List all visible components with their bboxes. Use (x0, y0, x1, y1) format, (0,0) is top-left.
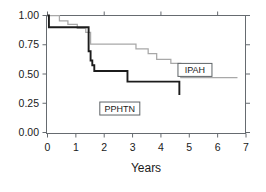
legend-label-pphtn: PPHTN (105, 104, 136, 114)
y-tick-label-5: 0.00 (19, 126, 40, 138)
plot-frame (47, 16, 246, 134)
y-tick-label-4: 0.25 (19, 97, 40, 109)
x-axis-top-ticks (48, 12, 218, 16)
x-tick-label-0: 0 (45, 141, 51, 153)
y-tick-label-2: 0.75 (19, 38, 40, 50)
y-axis-ticks (43, 16, 47, 133)
y-tick-label-1: 1.00 (19, 9, 40, 21)
x-tick-label-5: 5 (186, 141, 192, 153)
x-axis-title: Years (131, 161, 161, 175)
x-tick-label-2: 2 (101, 141, 107, 153)
x-tick-label-4: 4 (158, 141, 164, 153)
legend-annotation-pphtn[interactable]: PPHTN (100, 102, 140, 115)
x-axis-ticks (48, 134, 247, 138)
legend-label-ipah: IPAH (185, 65, 205, 75)
y-axis-tick-labels: 1.00 0.75 0.50 0.25 0.00 (19, 9, 40, 138)
survival-curve-pphtn (48, 16, 180, 96)
x-axis-tick-labels: 0 1 2 3 4 5 6 7 (45, 141, 250, 153)
x-tick-label-7: 7 (243, 141, 249, 153)
survival-curve-figure: 1.00 0.75 0.50 0.25 0.00 (0, 0, 266, 192)
x-tick-label-1: 1 (73, 141, 79, 153)
kaplan-meier-plot: 1.00 0.75 0.50 0.25 0.00 (0, 0, 266, 192)
legend-annotation-ipah[interactable]: IPAH (178, 63, 212, 76)
x-tick-label-3: 3 (130, 141, 136, 153)
x-tick-label-6: 6 (215, 141, 221, 153)
y-axis-right-ticks (246, 16, 250, 133)
y-tick-label-3: 0.50 (19, 68, 40, 80)
